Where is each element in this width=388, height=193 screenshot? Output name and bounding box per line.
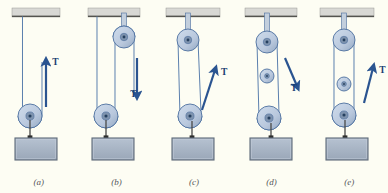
- pulley-wheel-movable: [260, 69, 274, 83]
- tension-arrow: [364, 68, 373, 103]
- panel-label-d: (d): [233, 177, 311, 187]
- ceiling-support: [166, 8, 220, 17]
- hanging-block: [250, 138, 292, 160]
- pulley-wheel-movable: [178, 104, 202, 128]
- tension-label-c: T: [221, 67, 228, 77]
- pulley-wheel-fixed: [333, 29, 355, 51]
- hanging-block: [15, 138, 57, 160]
- hanging-block: [172, 138, 214, 160]
- ceiling-support: [12, 8, 60, 17]
- panel-label-b: (b): [78, 177, 156, 187]
- pulley-wheel-movable: [337, 77, 351, 91]
- pulley-diagram-b: T: [78, 0, 156, 193]
- ceiling-support: [245, 8, 297, 17]
- panel-label-c: (c): [155, 177, 233, 187]
- hanging-block: [92, 138, 134, 160]
- tension-label-d: T: [291, 83, 298, 93]
- panel-label-a: (a): [0, 177, 78, 187]
- pulley-panel-d: T(d): [233, 0, 311, 193]
- pulley-wheel-fixed: [256, 31, 278, 53]
- pulley-panel-a: T(a): [0, 0, 78, 193]
- ceiling-support: [320, 8, 374, 17]
- hanging-block: [326, 138, 368, 160]
- tension-label-b: T: [130, 89, 137, 99]
- tension-arrow: [285, 58, 297, 86]
- pulley-wheel-fixed: [113, 26, 135, 48]
- tension-arrow: [202, 70, 215, 110]
- pulley-wheel-fixed: [177, 29, 199, 51]
- pulley-diagram-a: T: [0, 0, 78, 193]
- tension-label-e: T: [380, 65, 387, 75]
- tension-label-a: T: [52, 57, 59, 67]
- pulley-diagram-c: T: [155, 0, 233, 193]
- pulley-panel-c: T(c): [155, 0, 233, 193]
- pulley-systems-figure: T(a)T(b)T(c)T(d)T(e): [0, 0, 388, 193]
- pulley-panel-b: T(b): [78, 0, 156, 193]
- pulley-wheel-movable: [257, 106, 281, 130]
- pulley-wheel-movable: [332, 103, 356, 127]
- panel-label-e: (e): [310, 177, 388, 187]
- pulley-panel-e: T(e): [310, 0, 388, 193]
- pulley-diagram-d: T: [233, 0, 311, 193]
- pulley-diagram-e: T: [310, 0, 388, 193]
- ceiling-support: [88, 8, 140, 17]
